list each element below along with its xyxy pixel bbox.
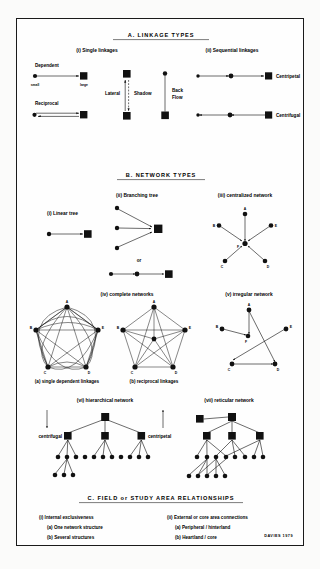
centralized-label-d: D [267,265,270,269]
centralized-node-d [263,259,268,264]
section-c-title: C. FIELD or STUDY AREA RELATIONSHIPS [88,495,235,501]
arc-a8 [36,323,98,331]
centrifugal-node-2 [228,113,233,118]
pentagon-a-node-a [64,304,69,309]
centralized-label-f: F [237,245,239,249]
hier-leaf-4 [83,455,88,460]
ret-mid-node-1 [203,432,211,440]
irregular-label-f: F [245,340,247,344]
ret-top-edge [204,417,228,419]
hier-sub-e3 [67,459,73,474]
pentagon-b-node-center [152,337,157,342]
linear-tree-target [84,230,92,238]
figure-canvas: A. LINKAGE TYPES (i) Single linkages (ii… [17,19,305,547]
pentagon-a-label-a: A [66,300,69,304]
centralized-edge-e [248,226,270,241]
centralized-label-c: C [221,265,224,269]
hier-e13 [68,440,76,456]
centralized-node-b [217,223,222,228]
centralized-edge-b [220,226,242,241]
pentagon-a-node-d [83,364,88,369]
ret-g1 [189,459,207,475]
pentagon-a-label-e: E [102,326,105,330]
ret-e3 [232,421,260,433]
hier-e33 [141,440,148,456]
centralized-edge-d [248,246,264,260]
ret-mid-node-2 [228,432,236,440]
branching-root [154,225,162,233]
ret-g7 [207,459,226,475]
irregular-node-e [284,327,289,332]
ret-leaf-8 [261,455,266,460]
ret-leaf-3 [214,455,219,460]
ret-leaf-4 [224,455,229,460]
ret-leaf-6 [243,455,248,460]
reciprocal-target-node [80,111,87,118]
hier-subleaf-1 [53,473,58,478]
irregular-edge-ad [249,311,275,362]
centralized-edge-c [226,246,242,260]
hier-e11 [58,440,68,456]
pentagon-b-label-b: B [117,326,120,330]
arc-a5 [48,330,98,369]
centrifugal-node-3 [265,111,272,118]
hier-leaf-9 [128,455,133,460]
back-label: Back [172,88,183,93]
internal-exclusiveness-a: (a) One network structure [47,525,103,530]
pentagon-a-label-c: C [44,371,47,375]
pentagon-b-node-b [120,327,125,332]
ret-f3 [207,440,226,456]
reticular-network [187,413,266,478]
complete-a-caption: (a) single dependent linkages [35,379,100,384]
centralized-label-b: B [213,224,216,228]
irregular-node-f [246,334,251,339]
centripetal-label: Centripetal [276,74,300,79]
ret-top-node-2 [228,413,236,421]
hier-leaf-7 [110,455,115,460]
complete-network-reciprocal: A B C D E [117,300,192,375]
hier-leaf-10 [137,455,142,460]
hier-centripetal-label: centripetal [148,434,171,439]
hier-mid-node-2 [101,432,109,440]
linear-tree-source [47,232,51,236]
centrifugal-node-1 [196,113,199,116]
hier-leaf-8 [119,455,124,460]
external-connections-b: (b) Heartland / core [175,535,217,540]
centripetal-node-1 [196,74,199,77]
internal-exclusiveness-b: (b) Several structures [47,535,95,540]
ret-f9 [260,440,263,456]
flow-label: Flow [172,95,183,100]
hier-subleaf-2 [62,473,67,478]
internal-exclusiveness-head: (i) Internal exclusiveness [39,515,94,520]
hierarchical-network: centrifugal centripetal [39,410,172,477]
pentagon-b-label-a: A [153,300,156,304]
figure-page: A. LINKAGE TYPES (i) Single linkages (ii… [0,0,320,569]
irregular-label-a: A [248,303,251,307]
ret-e1 [207,421,232,433]
ret-g2 [198,459,207,475]
reciprocal-source-node [32,113,36,117]
irregular-label-b: B [216,325,219,329]
lateral-bottom-node [123,112,131,120]
centralized-label-e: E [275,224,278,228]
linear-tree-label: (i) Linear tree [47,211,78,216]
hier-subleaf-3 [71,473,76,478]
centralized-network-label: (iii) centralized network [218,193,273,198]
pentagon-a-node-b [33,327,38,332]
figure-frame: A. LINKAGE TYPES (i) Single linkages (ii… [16,18,304,546]
ret-subleaf-2 [196,474,201,479]
irregular-label-c: C [228,368,231,372]
hier-leaf-5 [92,455,97,460]
pentagon-b-label-d: D [175,371,178,375]
dependent-target-node [80,72,87,79]
backflow-bottom-node [161,112,169,120]
dependent-label: Dependent [35,63,59,68]
irregular-node-c [230,362,235,367]
branching-alt-root [165,270,173,278]
shadow-label: Shadow [134,91,152,96]
irregular-label-e: E [290,325,293,329]
reciprocal-label: Reciprocal [35,101,59,106]
branching-edge-1 [118,209,152,227]
hier-root-edge-3 [105,419,141,433]
hier-root-node [101,413,109,421]
